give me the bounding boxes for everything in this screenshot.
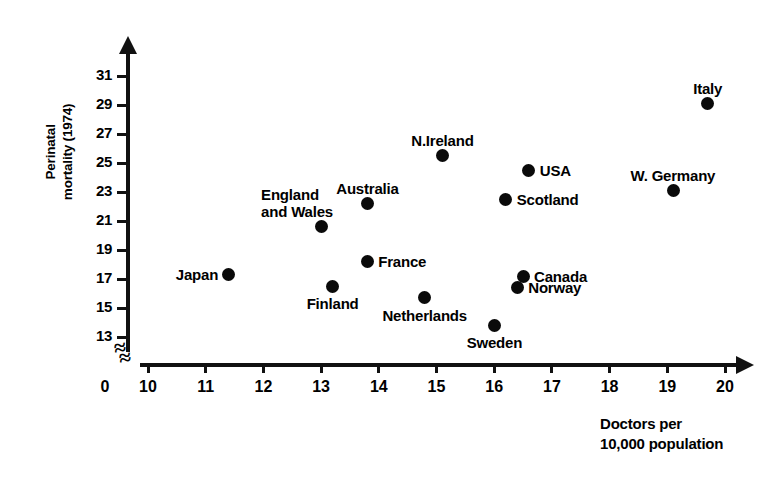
y-axis-tick-label: 13 (72, 327, 112, 344)
data-point[interactable] (522, 164, 535, 177)
data-point-label: Englandand Wales (261, 187, 333, 221)
x-axis-arrow-icon (736, 356, 754, 374)
y-axis-tick-label: 19 (72, 240, 112, 257)
x-axis-tick (435, 363, 438, 373)
data-point-label: N.Ireland (411, 133, 473, 150)
x-axis-tick (724, 363, 727, 373)
y-axis-tick-label: 15 (72, 298, 112, 315)
y-axis-tick (117, 162, 128, 165)
y-axis-tick (117, 278, 128, 281)
scatter-chart: Perinatal mortality (1974) ≈ ≈ 0 1315171… (0, 0, 784, 489)
x-axis-tick-label: 19 (647, 378, 687, 396)
y-axis-title-line-1: Perinatal (43, 57, 60, 247)
y-axis-tick-label: 17 (72, 269, 112, 286)
x-axis-break-icon: ≈ (118, 346, 133, 369)
x-axis-title-line-2: 10,000 population (600, 434, 723, 454)
x-axis-tick (608, 363, 611, 373)
x-axis-tick-label: 18 (590, 378, 630, 396)
origin-label: 0 (90, 378, 120, 396)
y-axis-tick-label: 23 (72, 182, 112, 199)
y-axis-tick (117, 133, 128, 136)
y-axis-tick (117, 75, 128, 78)
y-axis-tick-label: 25 (72, 153, 112, 170)
y-axis-tick (117, 220, 128, 223)
data-point-label: Italy (693, 81, 722, 98)
data-point-label: France (378, 254, 426, 271)
x-axis-title: Doctors per 10,000 population (600, 414, 723, 453)
data-point-label: Australia (336, 181, 398, 198)
x-axis-tick (262, 363, 265, 373)
data-point[interactable] (517, 270, 530, 283)
data-point[interactable] (361, 197, 374, 210)
data-point[interactable] (418, 291, 431, 304)
y-axis-tick (117, 104, 128, 107)
x-axis-tick-label: 14 (359, 378, 399, 396)
data-point[interactable] (326, 280, 339, 293)
y-axis-tick (117, 307, 128, 310)
y-axis-tick-label: 29 (72, 95, 112, 112)
data-point-label: W. Germany (631, 168, 716, 185)
x-axis-tick-label: 11 (186, 378, 226, 396)
data-point-label: Sweden (467, 335, 522, 352)
data-point-label: Canada (534, 269, 587, 286)
data-point[interactable] (511, 281, 524, 294)
x-axis-tick-label: 16 (474, 378, 514, 396)
x-axis-line (140, 363, 740, 367)
y-axis-tick-label: 27 (72, 124, 112, 141)
x-axis-tick (666, 363, 669, 373)
data-point[interactable] (315, 220, 328, 233)
x-axis-tick (377, 363, 380, 373)
y-axis-tick-label: 31 (72, 66, 112, 83)
data-point[interactable] (499, 193, 512, 206)
y-axis-tick (117, 249, 128, 252)
data-point[interactable] (436, 149, 449, 162)
x-axis-tick-label: 20 (705, 378, 745, 396)
data-point[interactable] (667, 184, 680, 197)
data-point-label: Scotland (517, 192, 579, 209)
x-axis-tick-label: 12 (243, 378, 283, 396)
x-axis-tick (493, 363, 496, 373)
y-axis-tick-label: 21 (72, 211, 112, 228)
y-axis-arrow-icon (119, 36, 137, 54)
x-axis-tick (204, 363, 207, 373)
x-axis-tick (147, 363, 150, 373)
data-point-label: Japan (176, 267, 218, 284)
data-point[interactable] (361, 255, 374, 268)
data-point[interactable] (222, 268, 235, 281)
x-axis-tick-label: 13 (301, 378, 341, 396)
x-axis-tick-label: 17 (532, 378, 572, 396)
y-axis-tick (117, 191, 128, 194)
data-point-label: Netherlands (382, 308, 467, 325)
data-point-label: Finland (307, 296, 359, 313)
data-point-label: USA (540, 163, 571, 180)
data-point[interactable] (488, 319, 501, 332)
x-axis-tick (550, 363, 553, 373)
x-axis-title-line-1: Doctors per (600, 414, 723, 434)
x-axis-tick-label: 15 (417, 378, 457, 396)
data-point[interactable] (701, 97, 714, 110)
x-axis-tick (320, 363, 323, 373)
x-axis-tick-label: 10 (128, 378, 168, 396)
y-axis-tick (117, 336, 128, 339)
